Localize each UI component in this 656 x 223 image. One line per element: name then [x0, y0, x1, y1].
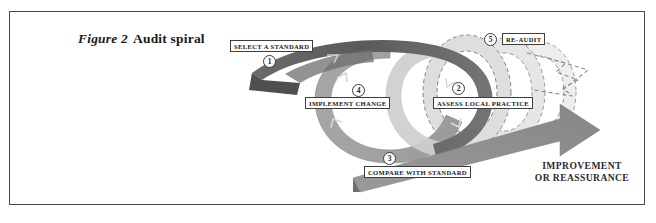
step-badge-2: 2	[452, 82, 465, 95]
step-badge-1: 1	[263, 55, 276, 68]
step-badge-4: 4	[352, 84, 365, 97]
outcome-line-1: IMPROVEMENT	[527, 160, 637, 172]
step-label-compare-with-standard: COMPARE WITH STANDARD	[364, 166, 471, 178]
step-label-implement-change: IMPLEMENT CHANGE	[305, 97, 390, 109]
outcome-text: IMPROVEMENT OR REASSURANCE	[527, 160, 637, 184]
step-label-assess-local-practice: ASSESS LOCAL PRACTICE	[433, 97, 533, 109]
audit-spiral-graphic	[0, 0, 656, 223]
step-badge-5: 5	[484, 33, 497, 46]
step-badge-3: 3	[383, 152, 396, 165]
step-label-re-audit: RE-AUDIT	[502, 33, 545, 45]
outcome-line-2: OR REASSURANCE	[527, 172, 637, 184]
figure-root: Figure 2Audit spiral	[0, 0, 656, 223]
step-label-select-a-standard: SELECT A STANDARD	[230, 40, 313, 52]
